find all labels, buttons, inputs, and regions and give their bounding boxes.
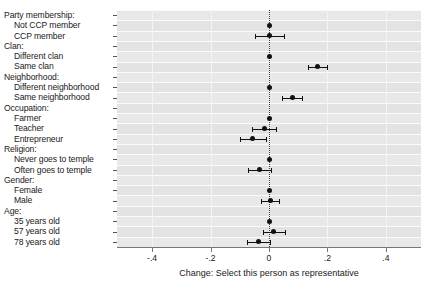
reference-point-marker xyxy=(267,219,272,224)
y-axis-tick xyxy=(113,201,117,202)
x-axis-tick-label: -.4 xyxy=(132,253,172,263)
reference-point-marker xyxy=(267,188,272,193)
attribute-level-label: Different clan xyxy=(14,51,63,61)
attribute-level-label: Often goes to temple xyxy=(14,165,92,175)
attribute-header-label: Religion: xyxy=(4,144,37,154)
y-axis-tick xyxy=(113,180,117,181)
x-axis-tick-label: .2 xyxy=(307,253,347,263)
confidence-interval-cap-high xyxy=(271,168,272,173)
attribute-level-label: Different neighborhood xyxy=(14,82,99,92)
coefficient-plot: Party membership:Not CCP memberCCP membe… xyxy=(0,0,426,283)
attribute-level-label: Never goes to temple xyxy=(14,154,94,164)
reference-point-marker xyxy=(267,116,272,121)
attribute-level-label: Not CCP member xyxy=(14,20,80,30)
confidence-interval-cap-low xyxy=(255,34,256,39)
x-axis-tick-label: 0 xyxy=(249,253,289,263)
y-axis-tick xyxy=(113,139,117,140)
attribute-header-label: Gender: xyxy=(4,175,34,185)
y-axis-tick xyxy=(113,77,117,78)
attribute-level-label: Same clan xyxy=(14,61,54,71)
y-axis-tick xyxy=(113,242,117,243)
x-axis-tick xyxy=(211,248,212,252)
y-axis-tick xyxy=(113,98,117,99)
confidence-interval-cap-high xyxy=(270,240,271,245)
y-axis-tick xyxy=(113,118,117,119)
attribute-level-label: CCP member xyxy=(14,31,65,41)
confidence-interval-cap-high xyxy=(284,34,285,39)
x-axis-tick-label: .4 xyxy=(366,253,406,263)
attribute-header-label: Party membership: xyxy=(4,10,74,20)
attribute-header-label: Clan: xyxy=(4,41,24,51)
y-axis-tick xyxy=(113,46,117,47)
confidence-interval-cap-low xyxy=(308,65,309,70)
confidence-interval-cap-low xyxy=(248,168,249,173)
estimate-point-marker xyxy=(267,33,272,38)
y-axis-tick xyxy=(113,15,117,16)
confidence-interval-cap-low xyxy=(252,127,253,132)
reference-point-marker xyxy=(267,157,272,162)
attribute-level-label: Female xyxy=(14,185,42,195)
attribute-level-label: Male xyxy=(14,195,32,205)
confidence-interval-cap-low xyxy=(282,96,283,101)
y-axis-tick xyxy=(113,56,117,57)
x-axis-tick xyxy=(152,248,153,252)
vertical-gridline xyxy=(152,10,153,247)
y-axis-tick xyxy=(113,129,117,130)
attribute-header-label: Occupation: xyxy=(4,103,49,113)
confidence-interval-cap-high xyxy=(276,127,277,132)
confidence-interval-cap-low xyxy=(261,199,262,204)
x-axis-tick xyxy=(269,248,270,252)
confidence-interval-cap-low xyxy=(240,137,241,142)
confidence-interval-cap-high xyxy=(327,65,328,70)
attribute-header-label: Neighborhood: xyxy=(4,72,59,82)
confidence-interval-cap-low xyxy=(247,240,248,245)
estimate-point-marker xyxy=(262,126,267,131)
vertical-gridline xyxy=(386,10,387,247)
y-axis-tick xyxy=(113,170,117,171)
attribute-level-label: 57 years old xyxy=(14,226,60,236)
attribute-level-label: Teacher xyxy=(14,123,44,133)
x-axis-tick xyxy=(327,248,328,252)
confidence-interval-cap-high xyxy=(279,199,280,204)
attribute-level-label: 35 years old xyxy=(14,216,60,226)
estimate-point-marker xyxy=(257,167,262,172)
confidence-interval-cap-low xyxy=(263,230,264,235)
confidence-interval-cap-high xyxy=(285,230,286,235)
attribute-level-label: 78 years old xyxy=(14,237,60,247)
attribute-header-label: Age: xyxy=(4,206,21,216)
y-axis-tick xyxy=(113,190,117,191)
y-axis-tick xyxy=(113,108,117,109)
x-axis-tick-label: -.2 xyxy=(191,253,231,263)
confidence-interval-cap-high xyxy=(302,96,303,101)
attribute-level-label: Same neighborhood xyxy=(14,92,90,102)
y-axis-tick xyxy=(113,232,117,233)
y-axis-tick xyxy=(113,211,117,212)
y-axis-tick xyxy=(113,67,117,68)
estimate-point-marker xyxy=(268,198,273,203)
attribute-level-label: Farmer xyxy=(14,113,41,123)
y-axis-tick xyxy=(113,36,117,37)
vertical-gridline xyxy=(211,10,212,247)
y-axis-tick xyxy=(113,87,117,88)
confidence-interval-cap-high xyxy=(266,137,267,142)
attribute-level-label: Entrepreneur xyxy=(14,134,63,144)
y-axis-tick xyxy=(113,159,117,160)
vertical-gridline xyxy=(327,10,328,247)
reference-point-marker xyxy=(267,85,272,90)
reference-point-marker xyxy=(267,54,272,59)
y-axis-tick xyxy=(113,25,117,26)
x-axis-tick xyxy=(386,248,387,252)
y-axis-tick xyxy=(113,221,117,222)
x-axis-title: Change: Select this person as representa… xyxy=(117,268,421,278)
estimate-point-marker xyxy=(290,95,295,100)
reference-point-marker xyxy=(267,23,272,28)
y-axis-tick xyxy=(113,149,117,150)
